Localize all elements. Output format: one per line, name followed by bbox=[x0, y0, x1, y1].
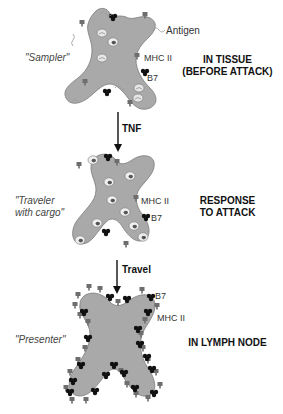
tnf-label: TNF bbox=[122, 123, 141, 134]
mhc-label-3: MHC II bbox=[157, 313, 185, 324]
antigen-label: Antigen bbox=[166, 25, 200, 36]
presenter-nickname: "Presenter" bbox=[15, 334, 65, 346]
b7-label-1: B7 bbox=[147, 73, 158, 84]
b7-label-3: B7 bbox=[155, 291, 166, 302]
presenter-cell bbox=[64, 284, 163, 404]
mhc-label-2: MHC II bbox=[141, 196, 169, 207]
stage-title-line1: IN TISSUE bbox=[180, 54, 275, 66]
travel-label: Travel bbox=[122, 264, 151, 275]
stage-title-line1: IN LYMPH NODE bbox=[180, 337, 275, 349]
traveler-nickname-line2: with cargo" bbox=[15, 207, 64, 219]
stage-title-line1: RESPONSE bbox=[180, 195, 275, 207]
b7-label-2: B7 bbox=[151, 213, 162, 224]
stage-title-line2: (BEFORE ATTACK) bbox=[180, 66, 275, 78]
traveler-nickname: "Traveler with cargo" bbox=[15, 195, 64, 219]
mhc-label-1: MHC II bbox=[144, 53, 172, 64]
dendritic-cell-diagram: "Sampler" Antigen MHC II B7 IN TISSUE (B… bbox=[0, 0, 283, 414]
traveler-nickname-line1: "Traveler bbox=[15, 195, 64, 207]
stage-title-line2: TO ATTACK bbox=[180, 207, 275, 219]
sampler-nickname: "Sampler" bbox=[25, 52, 69, 64]
stage-title-in-tissue: IN TISSUE (BEFORE ATTACK) bbox=[180, 54, 275, 78]
stage-title-response: RESPONSE TO ATTACK bbox=[180, 195, 275, 219]
stage-title-lymph-node: IN LYMPH NODE bbox=[180, 337, 275, 349]
